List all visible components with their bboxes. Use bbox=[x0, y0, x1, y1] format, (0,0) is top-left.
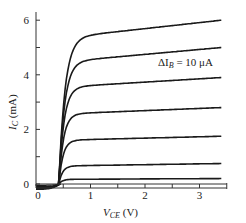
x-axis-title: VCE (V) bbox=[103, 206, 138, 220]
ic-vce-chart: 02460123 VCE (V) IC (mA) ΔIB = 10 μA bbox=[0, 0, 246, 223]
y-tick-label: 4 bbox=[24, 69, 30, 81]
x-tick-label: 0 bbox=[35, 189, 41, 201]
characteristic-curve bbox=[36, 20, 221, 188]
x-tick-label: 2 bbox=[142, 189, 148, 201]
y-tick-label: 6 bbox=[24, 14, 30, 26]
characteristic-curve bbox=[36, 48, 221, 189]
x-tick-label: 3 bbox=[197, 189, 203, 201]
tick-labels: 02460123 bbox=[24, 14, 203, 201]
characteristic-curve bbox=[36, 179, 221, 189]
y-tick-label: 2 bbox=[24, 123, 30, 135]
y-tick-label: 0 bbox=[24, 178, 30, 190]
delta-ib-annotation: ΔIB = 10 μA bbox=[158, 56, 213, 70]
x-tick-label: 1 bbox=[88, 189, 94, 201]
characteristic-curves bbox=[36, 20, 221, 189]
y-axis-title: IC (mA) bbox=[6, 94, 20, 131]
